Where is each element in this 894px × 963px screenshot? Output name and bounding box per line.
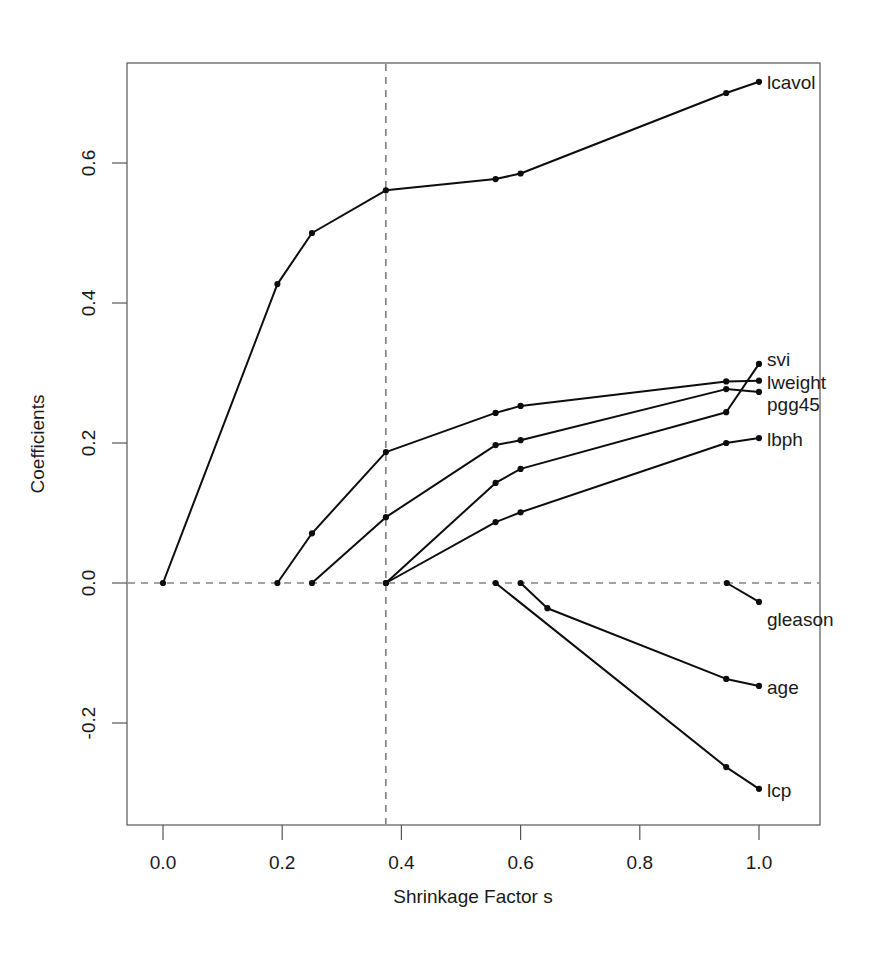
- x-tick-label: 0.8: [627, 852, 653, 873]
- data-point-lweight: [518, 403, 524, 409]
- data-point-lcavol: [309, 230, 315, 236]
- x-tick-label: 0.0: [150, 852, 176, 873]
- data-point-svi: [518, 466, 524, 472]
- x-axis-tick-labels: 0.00.20.40.60.81.0: [150, 852, 772, 873]
- series-gleason: gleason: [724, 580, 834, 630]
- y-tick-label: -0.2: [78, 707, 99, 740]
- reference-guides: [128, 64, 819, 824]
- series-label-lweight: lweight: [767, 372, 827, 393]
- series-layer: lcavolsvilweightpgg45lbphgleasonagelcp: [160, 72, 834, 801]
- series-line-age: [521, 583, 759, 686]
- x-axis-title: Shrinkage Factor s: [393, 886, 552, 907]
- y-tick-label: 0.2: [78, 430, 99, 456]
- data-point-lcavol: [493, 176, 499, 182]
- x-tick-label: 0.4: [388, 852, 415, 873]
- y-tick-label: 0.0: [78, 570, 99, 596]
- data-point-lcavol: [723, 90, 729, 96]
- series-line-lcp: [496, 583, 759, 789]
- data-point-svi: [723, 409, 729, 415]
- data-point-gleason: [724, 580, 730, 586]
- data-point-pgg45: [723, 386, 729, 392]
- series-line-pgg45: [312, 389, 759, 583]
- lasso-coefficient-path-chart: 0.00.20.40.60.81.0 -0.20.00.20.40.6 lcav…: [0, 0, 894, 963]
- series-lcp: lcp: [493, 580, 792, 801]
- data-point-svi: [756, 361, 762, 367]
- series-age: age: [518, 580, 799, 698]
- series-lbph: lbph: [383, 429, 803, 586]
- x-tick-label: 0.6: [507, 852, 533, 873]
- data-point-lcp: [723, 764, 729, 770]
- series-label-pgg45: pgg45: [767, 394, 820, 415]
- series-line-gleason: [727, 583, 759, 602]
- data-point-lcp: [493, 580, 499, 586]
- data-point-lcavol: [383, 187, 389, 193]
- data-point-lcp: [756, 786, 762, 792]
- series-line-svi: [386, 364, 759, 583]
- series-label-lcavol: lcavol: [767, 72, 816, 93]
- series-label-gleason: gleason: [767, 609, 834, 630]
- data-point-gleason: [756, 599, 762, 605]
- series-label-lcp: lcp: [767, 780, 791, 801]
- data-point-lweight: [383, 449, 389, 455]
- data-point-lweight: [723, 378, 729, 384]
- series-lweight: lweight: [274, 372, 827, 586]
- data-point-lbph: [756, 435, 762, 441]
- series-line-lbph: [386, 438, 759, 583]
- series-label-age: age: [767, 677, 799, 698]
- data-point-svi: [493, 480, 499, 486]
- y-axis-ticks: [112, 163, 127, 723]
- series-label-lbph: lbph: [767, 429, 803, 450]
- y-axis-title: Coefficients: [27, 395, 48, 494]
- coefficient-path-figure: 0.00.20.40.60.81.0 -0.20.00.20.40.6 lcav…: [0, 0, 894, 963]
- data-point-lweight: [274, 580, 280, 586]
- data-point-lweight: [309, 530, 315, 536]
- data-point-lcavol: [756, 79, 762, 85]
- data-point-age: [756, 683, 762, 689]
- data-point-lbph: [518, 509, 524, 515]
- series-label-svi: svi: [767, 349, 790, 370]
- data-point-pgg45: [493, 442, 499, 448]
- data-point-pgg45: [383, 514, 389, 520]
- y-tick-label: 0.4: [78, 289, 99, 316]
- data-point-lbph: [723, 440, 729, 446]
- x-tick-label: 1.0: [746, 852, 772, 873]
- data-point-age: [518, 580, 524, 586]
- data-point-age: [544, 605, 550, 611]
- data-point-lweight: [756, 378, 762, 384]
- series-lcavol: lcavol: [160, 72, 816, 586]
- data-point-lcavol: [274, 281, 280, 287]
- data-point-pgg45: [756, 389, 762, 395]
- y-axis-tick-labels: -0.20.00.20.40.6: [78, 150, 99, 740]
- series-line-lcavol: [163, 82, 759, 583]
- data-point-lcavol: [518, 170, 524, 176]
- data-point-pgg45: [518, 437, 524, 443]
- x-tick-label: 0.2: [269, 852, 295, 873]
- data-point-lweight: [493, 410, 499, 416]
- data-point-lbph: [383, 580, 389, 586]
- data-point-lcavol: [160, 580, 166, 586]
- series-line-lweight: [277, 381, 759, 583]
- y-tick-label: 0.6: [78, 150, 99, 176]
- data-point-age: [723, 676, 729, 682]
- plot-frame: [127, 63, 820, 825]
- x-axis-ticks: [163, 825, 759, 840]
- data-point-pgg45: [309, 580, 315, 586]
- data-point-lbph: [493, 519, 499, 525]
